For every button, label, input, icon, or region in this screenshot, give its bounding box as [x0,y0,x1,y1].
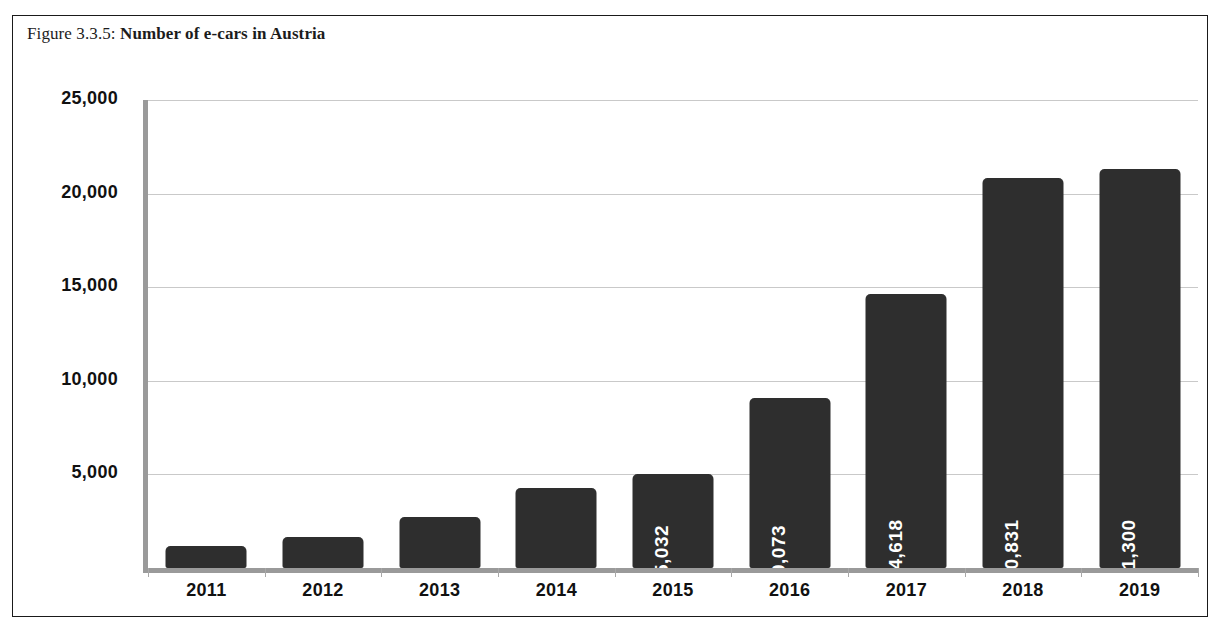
bar-2014[interactable] [516,488,597,568]
bar-chart: 5,00010,00015,00020,00025,000 5,0329,073… [13,16,1209,618]
bar-2011[interactable] [166,546,247,568]
y-tick-label: 15,000 [0,275,118,296]
bar-slot [381,100,498,568]
bar-2012[interactable] [282,537,363,568]
x-tick-mark [731,568,732,577]
bars-layer: 5,0329,07314,61820,83121,300 [148,100,1198,568]
bar-2016[interactable]: 9,073 [749,398,830,568]
bar-slot: 14,618 [848,100,965,568]
y-tick-label: 10,000 [0,369,118,390]
x-axis-tick-labels: 201120122013201420152016201720182019 [143,568,1198,614]
bar-slot [148,100,265,568]
y-tick-label: 5,000 [0,462,118,483]
x-tick-label-2018: 2018 [965,580,1082,601]
x-tick-mark [148,568,149,577]
x-tick-mark [965,568,966,577]
y-tick-label: 25,000 [0,88,118,109]
bar-slot: 20,831 [965,100,1082,568]
bar-2015[interactable]: 5,032 [632,474,713,568]
x-tick-mark [848,568,849,577]
x-tick-label-2015: 2015 [615,580,732,601]
y-tick-label: 20,000 [0,182,118,203]
plot-area: 5,00010,00015,00020,00025,000 5,0329,073… [143,100,1198,568]
figure-frame: Figure 3.3.5: Number of e-cars in Austri… [12,15,1208,617]
bar-slot [265,100,382,568]
bar-slot: 9,073 [731,100,848,568]
x-tick-label-2016: 2016 [731,580,848,601]
bar-slot [498,100,615,568]
x-tick-mark [1198,568,1199,577]
x-tick-mark [498,568,499,577]
x-tick-mark [1081,568,1082,577]
x-tick-label-2019: 2019 [1081,580,1198,601]
x-tick-mark [381,568,382,577]
bar-2019[interactable]: 21,300 [1099,169,1180,568]
bar-2018[interactable]: 20,831 [982,178,1063,568]
x-tick-label-2013: 2013 [381,580,498,601]
x-tick-label-2011: 2011 [148,580,265,601]
bar-slot: 5,032 [615,100,732,568]
bar-2017[interactable]: 14,618 [866,294,947,568]
x-tick-label-2012: 2012 [265,580,382,601]
bar-2013[interactable] [399,517,480,568]
bar-slot: 21,300 [1081,100,1198,568]
x-tick-label-2017: 2017 [848,580,965,601]
x-tick-label-2014: 2014 [498,580,615,601]
x-tick-mark [615,568,616,577]
x-tick-mark [265,568,266,577]
